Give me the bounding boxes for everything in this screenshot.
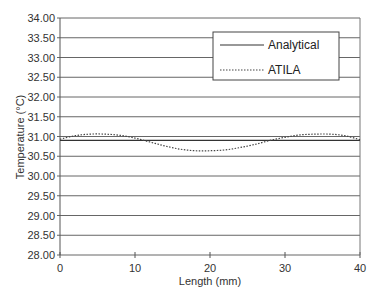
y-tick-label: 32.00 xyxy=(27,91,55,103)
y-tick-label: 29.50 xyxy=(27,190,55,202)
line-chart: 28.0028.5029.0029.5030.0030.5031.0031.50… xyxy=(0,0,376,301)
y-tick-label: 29.00 xyxy=(27,210,55,222)
y-tick-label: 30.00 xyxy=(27,170,55,182)
x-tick-label: 20 xyxy=(204,262,216,274)
y-tick-label: 33.50 xyxy=(27,32,55,44)
x-tick-label: 40 xyxy=(354,262,366,274)
y-tick-label: 31.50 xyxy=(27,111,55,123)
y-tick-label: 28.50 xyxy=(27,229,55,241)
y-tick-label: 30.50 xyxy=(27,150,55,162)
legend-analytical-label: Analytical xyxy=(268,38,319,52)
y-tick-label: 33.00 xyxy=(27,52,55,64)
y-tick-label: 34.00 xyxy=(27,12,55,24)
x-tick-label: 30 xyxy=(279,262,291,274)
y-tick-label: 31.00 xyxy=(27,131,55,143)
legend: Analytical ATILA xyxy=(213,32,339,80)
y-tick-label: 28.00 xyxy=(27,249,55,261)
y-axis-ticks: 28.0028.5029.0029.5030.0030.5031.0031.50… xyxy=(27,12,55,261)
y-axis-title: Temperature (°C) xyxy=(14,95,26,179)
x-axis-title: Length (mm) xyxy=(179,275,241,287)
x-tick-label: 0 xyxy=(57,262,63,274)
y-tick-label: 32.50 xyxy=(27,71,55,83)
x-tick-label: 10 xyxy=(129,262,141,274)
legend-atila-label: ATILA xyxy=(268,63,300,77)
